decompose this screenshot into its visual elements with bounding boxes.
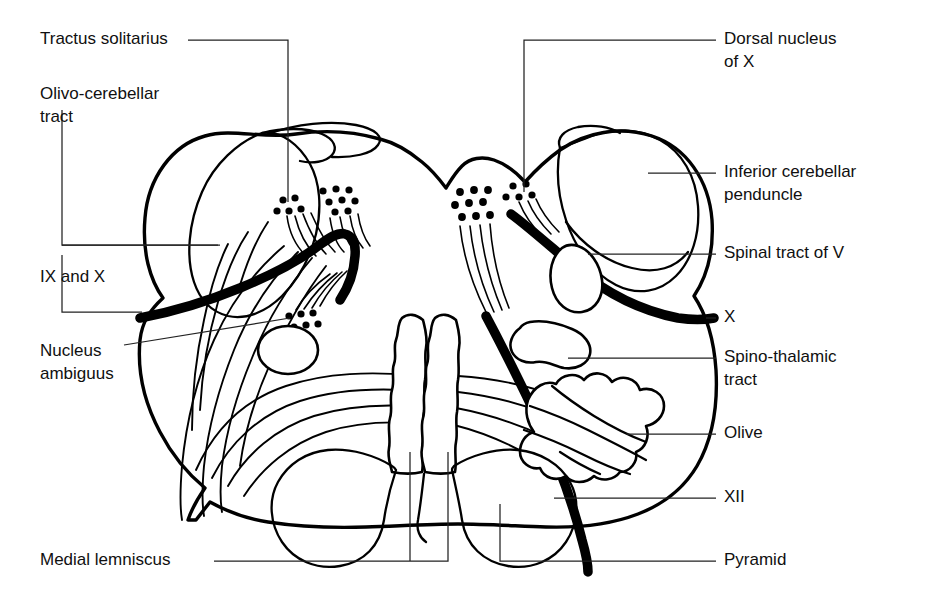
label-olivo-cerebellar-tract-line1: Olivo-cerebellar bbox=[40, 84, 159, 103]
medulla-cross-section-diagram: Tractus solitarius Olivo-cerebellar trac… bbox=[0, 0, 933, 598]
label-spinal-tract-of-v: Spinal tract of V bbox=[724, 243, 845, 262]
label-tractus-solitarius: Tractus solitarius bbox=[40, 29, 168, 48]
label-x: X bbox=[724, 307, 735, 326]
label-spino-thalamic-tract-line2: tract bbox=[724, 370, 757, 389]
spinal-tract-of-v-oval-left bbox=[258, 326, 318, 374]
label-medial-lemniscus: Medial lemniscus bbox=[40, 550, 170, 569]
label-spino-thalamic-tract-line1: Spino-thalamic bbox=[724, 347, 837, 366]
medial-lemniscus-columns bbox=[388, 315, 459, 474]
label-xii: XII bbox=[724, 487, 745, 506]
label-dorsal-nucleus-of-x-line2: of X bbox=[724, 52, 754, 71]
label-nucleus-ambiguus-line2: ambiguus bbox=[40, 364, 114, 383]
label-inferior-cerebellar-penduncle-line1: Inferior cerebellar bbox=[724, 162, 857, 181]
figure-root: Tractus solitarius Olivo-cerebellar trac… bbox=[0, 0, 933, 598]
label-inferior-cerebellar-penduncle-line2: penduncle bbox=[724, 185, 802, 204]
label-pyramid: Pyramid bbox=[724, 550, 786, 569]
label-olivo-cerebellar-tract-line2: tract bbox=[40, 107, 73, 126]
label-ix-and-x: IX and X bbox=[40, 267, 105, 286]
label-dorsal-nucleus-of-x-line1: Dorsal nucleus bbox=[724, 29, 836, 48]
label-olive: Olive bbox=[724, 423, 763, 442]
label-nucleus-ambiguus-line1: Nucleus bbox=[40, 341, 101, 360]
